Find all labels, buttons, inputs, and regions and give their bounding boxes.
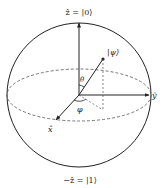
psi-label: |ψ⟩ [107, 48, 119, 57]
phi-label: φ [77, 105, 83, 114]
z-bottom-label: −ẑ = |1⟩ [63, 176, 97, 185]
theta-arc [79, 85, 84, 87]
theta-label: θ [80, 76, 85, 84]
z-top-label: ẑ = |0⟩ [66, 8, 93, 17]
x-axis-label: x̂ [48, 125, 53, 134]
bloch-sphere-diagram: ẑ = |0⟩ −ẑ = |1⟩ |ψ⟩ θ φ x̂ ŷ [0, 0, 164, 188]
y-axis-label: ŷ [151, 91, 157, 100]
x-axis-arrow [56, 95, 79, 120]
phi-arc [74, 99, 86, 101]
